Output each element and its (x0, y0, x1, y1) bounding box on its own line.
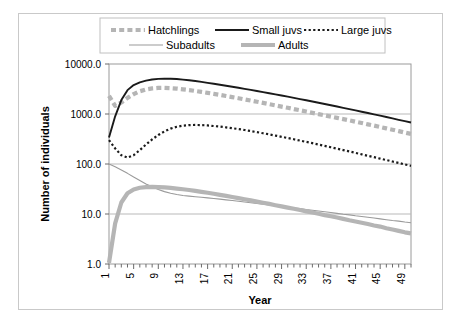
x-tick-label: 1 (100, 273, 111, 279)
chart-figure: HatchlingsSmall juvsLarge juvsSubadultsA… (18, 13, 443, 310)
x-tick-label: 5 (125, 273, 136, 279)
x-axis-ticks: 15913172125293337414549 (100, 264, 411, 284)
y-tick-label: 10.0 (82, 209, 102, 220)
y-axis-ticks: 1.010.0100.01000.010000.0 (65, 59, 109, 270)
x-tick-label: 37 (322, 273, 333, 285)
x-tick-label: 41 (347, 273, 358, 285)
legend-label-small-juvs: Small juvs (252, 24, 303, 36)
legend-label-adults: Adults (278, 39, 309, 51)
y-tick-label: 1000.0 (70, 109, 101, 120)
x-tick-label: 17 (199, 273, 210, 285)
x-axis-title: Year (248, 294, 272, 306)
x-tick-label: 21 (223, 273, 234, 285)
legend-label-subadults: Subadults (166, 39, 215, 51)
x-tick-label: 49 (396, 273, 407, 285)
legend-label-hatchlings: Hatchlings (148, 24, 200, 36)
x-tick-label: 29 (273, 273, 284, 285)
y-tick-label: 1.0 (87, 259, 101, 270)
y-tick-label: 10000.0 (65, 59, 102, 70)
x-tick-label: 13 (174, 273, 185, 285)
y-axis-title: Number of individuals (39, 106, 51, 222)
x-tick-label: 25 (248, 273, 259, 285)
x-tick-label: 45 (371, 273, 382, 285)
chart-legend: HatchlingsSmall juvsLarge juvsSubadultsA… (100, 18, 392, 53)
legend-label-large-juvs: Large juvs (341, 24, 392, 36)
x-tick-label: 9 (149, 273, 160, 279)
y-tick-label: 100.0 (76, 159, 101, 170)
x-tick-label: 33 (297, 273, 308, 285)
population-line-chart: HatchlingsSmall juvsLarge juvsSubadultsA… (19, 14, 442, 309)
